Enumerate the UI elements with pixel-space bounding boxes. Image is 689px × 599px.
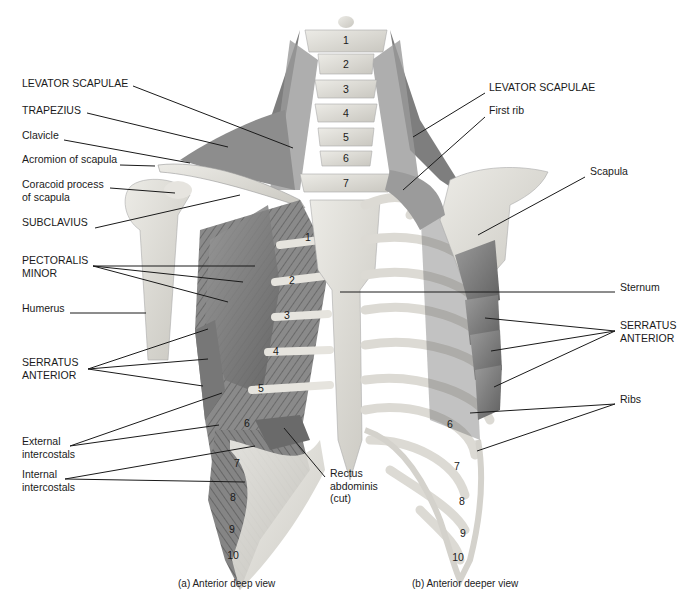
label-subclavius: SUBCLAVIUS bbox=[22, 216, 88, 229]
leader-line-trapezius bbox=[87, 113, 228, 147]
leader-line-subclavius bbox=[95, 195, 240, 228]
label-acromion: Acromion of scapula bbox=[22, 153, 117, 166]
caption-left: (a) Anterior deep view bbox=[178, 578, 275, 589]
label-clavicle: Clavicle bbox=[22, 129, 59, 142]
label-coracoid: Coracoid process of scapula bbox=[22, 178, 104, 203]
thoracic-muscles-illustration: LEVATOR SCAPULAETRAPEZIUSClavicleAcromio… bbox=[0, 0, 689, 599]
label-sternum: Sternum bbox=[620, 281, 660, 294]
leader-line-internal-intercostals-2 bbox=[65, 479, 245, 482]
leader-line-external-intercostals-2 bbox=[70, 425, 219, 446]
leader-line-external-intercostals-1 bbox=[70, 393, 222, 446]
leader-line-scapula bbox=[478, 177, 585, 235]
leader-line-coracoid bbox=[110, 188, 175, 193]
label-internal-intercostals: Internal intercostals bbox=[22, 468, 75, 493]
vertebra-number-5: 5 bbox=[343, 131, 349, 143]
caption-right: (b) Anterior deeper view bbox=[412, 578, 518, 589]
label-pectoralis-minor: PECTORALIS MINOR bbox=[22, 254, 88, 279]
label-external-intercostals: External intercostals bbox=[22, 435, 75, 460]
rib-number-left-9: 9 bbox=[229, 523, 235, 535]
rib-number-left-3: 3 bbox=[284, 309, 290, 321]
leader-line-acromion bbox=[120, 165, 155, 166]
leader-line-internal-intercostals-1 bbox=[65, 446, 255, 479]
rib-number-left-4: 4 bbox=[273, 345, 279, 357]
rib-number-right-9: 9 bbox=[460, 527, 466, 539]
leader-line-first-rib bbox=[403, 117, 485, 190]
rib-number-left-5: 5 bbox=[258, 382, 264, 394]
leader-line-serratus-right-1 bbox=[485, 318, 615, 331]
label-humerus: Humerus bbox=[22, 302, 65, 315]
label-trapezius: TRAPEZIUS bbox=[22, 104, 81, 117]
leader-line-serratus-right-3 bbox=[494, 331, 615, 387]
leader-line-serratus-left-2 bbox=[88, 359, 208, 369]
vertebra-number-1: 1 bbox=[343, 34, 349, 46]
label-scapula: Scapula bbox=[590, 165, 628, 178]
leader-line-rectus-abdominis bbox=[284, 428, 325, 477]
rib-number-left-1: 1 bbox=[305, 231, 311, 243]
label-ribs: Ribs bbox=[620, 393, 641, 406]
vertebra-number-7: 7 bbox=[343, 177, 349, 189]
label-levator-scapulae-left: LEVATOR SCAPULAE bbox=[22, 77, 128, 90]
leader-line-serratus-right-2 bbox=[491, 331, 615, 351]
rib-number-right-8: 8 bbox=[459, 495, 465, 507]
label-rectus-abdominis: Rectus abdominis (cut) bbox=[330, 467, 378, 505]
rib-number-left-8: 8 bbox=[230, 491, 236, 503]
rib-number-left-10: 10 bbox=[227, 549, 239, 561]
leader-line-serratus-left-3 bbox=[88, 369, 203, 386]
vertebra-number-3: 3 bbox=[343, 83, 349, 95]
leader-line-serratus-left-1 bbox=[88, 329, 208, 369]
leader-line-pectoralis-minor-3 bbox=[93, 266, 228, 302]
rib-number-left-2: 2 bbox=[289, 274, 295, 286]
rib-number-left-6: 6 bbox=[244, 417, 250, 429]
label-serratus-anterior-left: SERRATUS ANTERIOR bbox=[22, 356, 78, 381]
leader-line-levator-scapulae-right bbox=[413, 93, 485, 137]
rib-number-right-6: 6 bbox=[447, 418, 453, 430]
rib-number-right-7: 7 bbox=[454, 460, 460, 472]
label-first-rib: First rib bbox=[489, 104, 524, 117]
leader-line-levator-scapulae-left bbox=[133, 86, 293, 148]
rib-number-right-10: 10 bbox=[452, 551, 464, 563]
rib-number-left-7: 7 bbox=[234, 457, 240, 469]
label-serratus-anterior-right: SERRATUS ANTERIOR bbox=[620, 319, 676, 344]
vertebra-number-2: 2 bbox=[343, 58, 349, 70]
vertebra-number-6: 6 bbox=[343, 152, 349, 164]
leader-line-pectoralis-minor-2 bbox=[93, 266, 243, 282]
label-levator-scapulae-right: LEVATOR SCAPULAE bbox=[489, 81, 595, 94]
vertebra-number-4: 4 bbox=[343, 107, 349, 119]
